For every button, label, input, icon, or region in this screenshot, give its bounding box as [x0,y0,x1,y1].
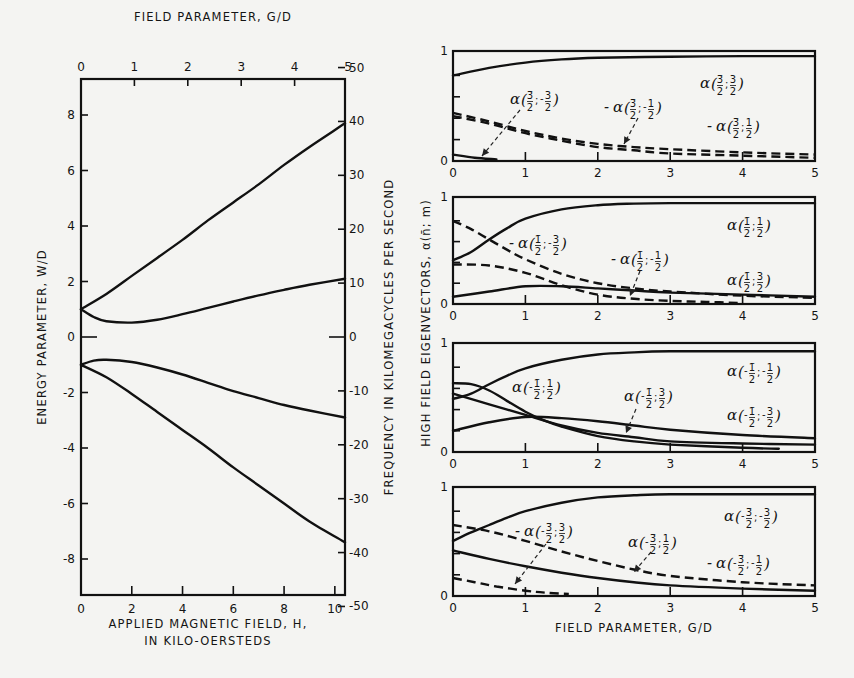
x-tick-label: 2 [594,309,602,323]
frequency-tick-label: 10 [349,276,364,290]
label-text: ; [542,383,545,394]
label-text: 2 [744,228,750,239]
label-text: - [529,381,533,392]
eigenvector-curve [453,155,496,160]
label-text: 3 [659,387,665,398]
bottom-axis-ticks: 0246810 [77,586,342,616]
label-text: α [613,98,623,116]
eigenvector-axis-title: HIGH FIELD EIGENVECTORS, α(n̄; m) [419,199,433,447]
eigenvector-curve [453,578,569,594]
label-text: - [540,93,544,104]
label-text: - [762,409,766,420]
label-text: 1 [663,533,669,544]
h-tick-label: 0 [77,602,85,616]
curve-label: -α(3̄2;-12) [604,98,662,121]
label-text: ) [655,99,662,117]
label-text: 1 [655,250,661,261]
eigenvector-curve [453,56,815,75]
frequency-tick-label: 0 [349,330,357,344]
label-text: - [733,557,737,568]
label-text: 2 [767,374,773,385]
label-text: 2 [733,129,739,140]
label-text: ; [757,367,760,378]
curve-label: α(-1̄2;32) [624,387,673,410]
frequency-tick-label: 50 [349,61,364,75]
gd-tick-label: 2 [184,60,192,74]
x-tick-label: 3 [666,309,674,323]
label-text: 2 [767,418,773,429]
label-text: ) [670,534,677,552]
label-text: ; [658,538,661,549]
label-text: α [518,234,528,252]
y-tick-label: 4 [67,219,75,233]
label-text: 3̄ [746,507,752,518]
y-tick-label: 0 [440,589,448,603]
y-tick-label: 8 [67,108,75,122]
gd-tick-label: 0 [77,60,85,74]
curve-label: -α(-3̄2;-12) [707,554,770,577]
label-text: - [611,250,616,268]
x-tick-label: 3 [666,601,674,615]
label-text: ; [757,411,760,422]
right-axis-ticks: 50403020100-10-20-30-40-50 [329,61,369,614]
top-axis-ticks: 012345 [77,60,352,86]
gd-tick-label: 4 [291,60,299,74]
x-tick-label: 4 [739,601,747,615]
eigenvector-curve [453,116,815,158]
label-text: ; [535,95,538,106]
bottom-axis-title-line2: IN KILO-OERSTEDS [144,634,272,648]
frequency-tick-label: -10 [349,384,369,398]
y-tick-label: 2 [67,275,75,289]
eigenvector-panels: HIGH FIELD EIGENVECTORS, α(n̄; m) 010123… [419,44,819,635]
label-text: 1̄ [749,406,755,417]
label-text: - [707,554,712,572]
label-text: 2 [650,545,656,556]
label-text: 2 [738,566,744,577]
curve-label: α(-1̄2;-12) [727,362,781,385]
label-text: 2 [559,534,565,545]
x-tick-label: 3 [666,457,674,471]
label-text: α [727,271,737,289]
label-text: α [524,522,534,540]
label-text: 2 [535,246,541,257]
h-tick-label: 6 [229,602,237,616]
label-text: α [624,387,634,405]
label-text: 1̄ [646,387,652,398]
h-tick-label: 10 [327,602,342,616]
label-text: 2 [630,110,636,121]
curve-label: -α(1̄2;-12) [611,250,669,273]
label-text: 2 [534,390,540,401]
label-text: - [645,536,649,547]
label-text: 2 [717,86,723,97]
label-text: α [512,378,522,396]
label-text: ) [560,235,567,253]
frequency-tick-label: -30 [349,492,369,506]
label-text: 2 [749,418,755,429]
label-text: 1̄ [534,378,540,389]
x-tick-label: 1 [522,457,530,471]
label-text: α [510,90,520,108]
y-tick-label: 1 [440,336,448,350]
y-tick-label: 0 [440,445,448,459]
label-text: 1̄ [535,234,541,245]
left-axis-title: ENERGY PARAMETER, W/D [35,249,49,425]
label-text: 2 [545,102,551,113]
curve-label: α(-3̄2;-32) [724,507,778,530]
label-text: - [643,101,647,112]
label-text: 1 [746,117,752,128]
label-text: 1 [648,98,654,109]
y-tick-label: -2 [63,386,75,400]
curve-label: α(3̄2;32) [700,74,744,97]
label-text: 2 [757,228,763,239]
label-text: 3 [767,406,773,417]
leader-line [482,110,520,156]
x-tick-label: 0 [449,457,457,471]
y-tick-label: 1 [440,44,448,58]
label-text: ; [754,512,757,523]
y-tick-label: -8 [63,552,75,566]
frequency-tick-label: 30 [349,168,364,182]
x-tick-label: 0 [449,601,457,615]
label-text: 3 [553,234,559,245]
label-text: 2 [659,399,665,410]
label-text: 2 [655,262,661,273]
